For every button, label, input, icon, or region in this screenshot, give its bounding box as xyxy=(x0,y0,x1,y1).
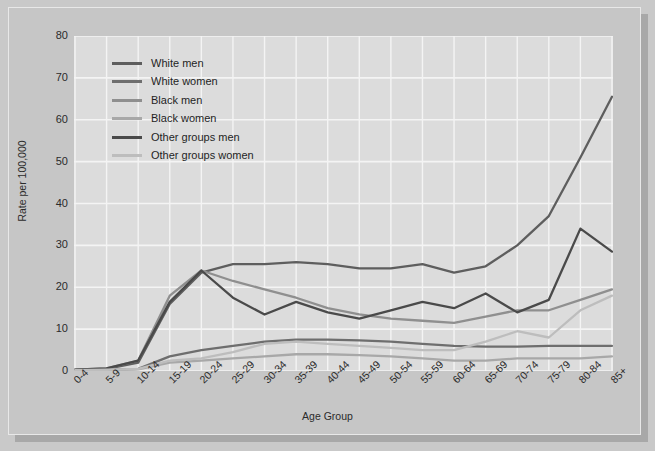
legend-item: White men xyxy=(112,54,302,73)
y-tick-label: 50 xyxy=(34,156,68,167)
y-tick-label: 10 xyxy=(34,323,68,334)
series-line xyxy=(75,229,612,370)
x-axis-title: Age Group xyxy=(0,410,655,422)
legend-item: Black women xyxy=(112,110,302,129)
legend-swatch-icon xyxy=(112,117,142,120)
y-tick-label: 80 xyxy=(34,30,68,41)
legend-swatch-icon xyxy=(112,99,142,102)
legend-item: Black men xyxy=(112,91,302,110)
figure-shadow-right xyxy=(641,14,648,442)
legend-label: Black women xyxy=(151,113,216,124)
y-tick-label: 60 xyxy=(34,114,68,125)
chart-legend: White menWhite womenBlack menBlack women… xyxy=(112,54,302,165)
legend-label: White women xyxy=(151,76,218,87)
chart-figure: 80706050403020100 Rate per 100,000 0-45-… xyxy=(0,0,655,451)
y-tick-label: 20 xyxy=(34,281,68,292)
legend-label: Other groups men xyxy=(151,132,240,143)
y-tick-label: 30 xyxy=(34,239,68,250)
legend-label: Black men xyxy=(151,95,202,106)
y-tick-label: 0 xyxy=(34,365,68,376)
legend-swatch-icon xyxy=(112,154,142,157)
y-axis-ticks: 80706050403020100 xyxy=(28,0,68,451)
legend-swatch-icon xyxy=(112,62,142,65)
figure-shadow-bottom xyxy=(15,435,648,442)
legend-label: Other groups women xyxy=(151,150,254,161)
legend-swatch-icon xyxy=(112,136,142,139)
y-tick-label: 40 xyxy=(34,198,68,209)
legend-label: White men xyxy=(151,58,204,69)
legend-item: White women xyxy=(112,73,302,92)
y-axis-title: Rate per 100,000 xyxy=(16,121,28,241)
legend-swatch-icon xyxy=(112,80,142,83)
y-tick-label: 70 xyxy=(34,72,68,83)
legend-item: Other groups men xyxy=(112,128,302,147)
legend-item: Other groups women xyxy=(112,147,302,166)
